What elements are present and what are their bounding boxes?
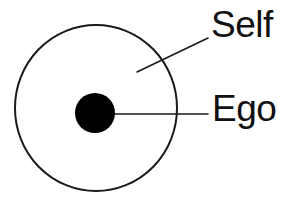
diagram-canvas: Self Ego [0,0,301,201]
ego-dot [75,93,115,133]
ego-label: Ego [212,90,276,127]
self-label: Self [211,6,273,43]
